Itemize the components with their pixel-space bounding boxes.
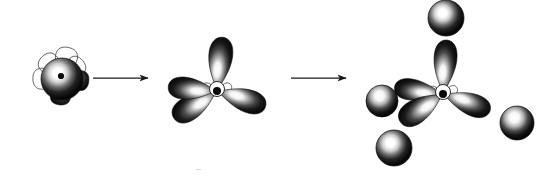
- bonded-1s-orbital-right: [500, 106, 534, 140]
- central-s-orbital: [41, 58, 83, 100]
- orbital-hybridization-figure: ─: [0, 0, 539, 177]
- stage-2-sp3-hybrid-orbitals: [167, 36, 269, 128]
- nucleus-dot: [58, 73, 64, 79]
- bonded-1s-orbital-top: [428, 0, 464, 36]
- bonded-1s-orbital-lower-left: [376, 130, 412, 166]
- nucleus-dot: [439, 90, 447, 98]
- stage-1-unhybridized-orbitals: [33, 45, 91, 106]
- faint-caption-mark: ─: [196, 166, 201, 173]
- stage-3-bonded-tetrahedral-molecule: [366, 0, 534, 166]
- stage-1-canvas: [0, 0, 539, 177]
- bonded-1s-orbital-left: [366, 85, 398, 117]
- nucleus-dot: [213, 87, 221, 95]
